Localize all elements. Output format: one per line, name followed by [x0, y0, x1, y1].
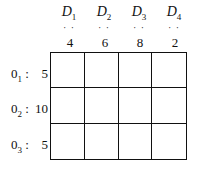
cell-o3-d2 [85, 124, 119, 159]
demand-d1: 4 [55, 35, 85, 51]
dest-label: D [132, 4, 142, 19]
origin-subscript: 1 [18, 74, 23, 84]
cell-o3-d1 [51, 124, 85, 159]
transportation-grid [50, 52, 187, 160]
cell-o2-d1 [51, 88, 85, 123]
dots-d2: · · [89, 22, 119, 33]
dest-label: D [97, 4, 107, 19]
cell-o2-d2 [85, 88, 119, 123]
origin-label-o1: 01 : [11, 66, 29, 84]
supply-o2: 10 [28, 101, 48, 117]
destination-header-d2: D2 [89, 4, 119, 22]
dots-d4: · · [159, 22, 189, 33]
destination-header-d4: D4 [159, 4, 189, 22]
cell-o3-d3 [119, 124, 153, 159]
origin-label-o2: 02 : [11, 101, 29, 119]
demand-d2: 6 [90, 35, 120, 51]
destination-header-d1: D1 [54, 4, 84, 22]
demand-d4: 2 [160, 35, 190, 51]
cell-o1-d4 [152, 53, 186, 88]
supply-o3: 5 [28, 137, 48, 153]
demand-d3: 8 [125, 35, 155, 51]
dest-label: D [62, 4, 72, 19]
supply-o1: 5 [28, 66, 48, 82]
origin-subscript: 2 [18, 109, 23, 119]
dest-subscript: 4 [177, 12, 182, 22]
cell-o2-d3 [119, 88, 153, 123]
cell-o1-d1 [51, 53, 85, 88]
origin-subscript: 3 [18, 145, 23, 155]
cell-o1-d3 [119, 53, 153, 88]
dest-subscript: 1 [72, 12, 77, 22]
origin-label-o3: 03 : [11, 137, 29, 155]
dest-subscript: 2 [107, 12, 112, 22]
cell-o1-d2 [85, 53, 119, 88]
dots-d1: · · [54, 22, 84, 33]
dest-label: D [167, 4, 177, 19]
cell-o3-d4 [152, 124, 186, 159]
destination-header-d3: D3 [124, 4, 154, 22]
dest-subscript: 3 [142, 12, 147, 22]
cell-o2-d4 [152, 88, 186, 123]
dots-d3: · · [124, 22, 154, 33]
